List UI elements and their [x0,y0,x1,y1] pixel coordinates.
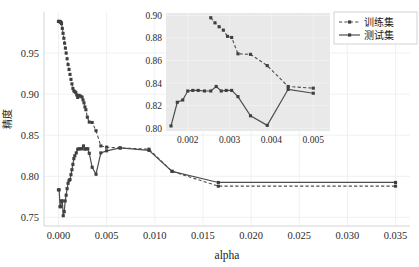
data-point-marker [58,188,61,191]
data-point-marker [68,73,71,76]
chart-figure: 0.0000.0050.0100.0150.0200.0250.0300.035… [0,0,419,267]
x-tick-label: 0.005 [95,230,119,241]
data-point-marker [80,147,83,150]
data-point-marker [99,151,102,154]
inset-y-tick-label: 0.88 [145,33,162,43]
data-point-marker [209,16,212,19]
data-point-marker [171,170,174,173]
inset-y-tick-labels: 0.800.820.840.860.880.90 [145,11,162,134]
data-point-marker [62,32,65,35]
data-point-marker [70,168,73,171]
inset-x-tick-label: 0.004 [261,135,283,145]
data-point-marker [80,95,83,98]
data-point-marker [62,37,65,40]
data-point-marker [82,101,85,104]
data-point-marker [218,25,221,28]
data-point-marker [72,157,75,160]
inset-x-tick-label: 0.005 [303,135,325,145]
data-point-marker [86,116,89,119]
data-point-marker [249,114,252,117]
legend-label: 训练集 [364,16,394,28]
data-point-marker [176,101,179,104]
legend[interactable]: 训练集测试集 [334,12,417,44]
data-point-marker [69,173,72,176]
inset-axes: 0.0020.0030.0040.0050.800.820.840.860.88… [145,11,330,145]
inset-x-tick-label: 0.002 [177,135,199,145]
data-point-marker [66,57,69,60]
data-point-marker [88,152,91,155]
legend-marker [348,33,351,36]
data-point-marker [213,21,216,24]
data-point-marker [59,205,62,208]
data-point-marker [169,124,172,127]
data-point-marker [226,35,229,38]
data-point-marker [249,53,252,56]
x-tick-label: 0.030 [336,230,360,241]
data-point-marker [69,78,72,81]
data-point-marker [217,185,220,188]
data-point-marker [394,181,397,184]
data-point-marker [75,151,78,154]
y-tick-label: 0.85 [21,130,39,141]
data-point-marker [99,144,102,147]
data-point-marker [225,89,228,92]
data-point-marker [94,129,97,132]
data-point-marker [220,89,223,92]
main-x-tick-labels: 0.0000.0050.0100.0150.0200.0250.0300.035 [47,230,408,241]
data-point-marker [62,214,65,217]
data-point-marker [81,98,84,101]
data-point-marker [236,52,239,55]
data-point-marker [67,63,70,66]
data-point-marker [70,82,73,85]
data-point-marker [186,89,189,92]
data-point-marker [86,147,89,150]
series-line-test-main [58,146,395,216]
inset-x-tick-label: 0.003 [219,135,241,145]
data-point-marker [82,144,85,147]
data-point-marker [236,95,239,98]
y-tick-label: 0.80 [21,171,39,182]
data-point-marker [191,89,194,92]
data-point-marker [394,185,397,188]
accuracy-vs-alpha-chart: 0.0000.0050.0100.0150.0200.0250.0300.035… [0,0,419,267]
data-point-marker [181,98,184,101]
data-point-marker [60,22,63,25]
legend-marker [348,20,351,23]
data-point-marker [217,181,220,184]
series-markers-test-main [57,144,397,217]
data-point-marker [222,29,225,32]
data-point-marker [63,210,66,213]
y-tick-label: 0.95 [21,48,39,59]
x-tick-label: 0.025 [287,230,311,241]
data-point-marker [215,85,218,88]
data-point-marker [203,89,206,92]
data-point-marker [65,52,68,55]
inset-background [166,13,330,131]
data-point-marker [105,149,108,152]
data-point-marker [147,149,150,152]
x-tick-label: 0.000 [47,230,71,241]
data-point-marker [61,27,64,30]
data-point-marker [67,68,70,71]
inset-y-tick-label: 0.86 [145,56,162,66]
data-point-marker [84,108,87,111]
data-point-marker [61,199,64,202]
data-point-marker [83,105,86,108]
data-point-marker [197,89,200,92]
inset-y-tick-label: 0.84 [145,79,162,89]
data-point-marker [68,178,71,181]
data-point-marker [105,146,108,149]
legend-label: 测试集 [364,29,394,41]
inset-y-tick-label: 0.80 [145,124,162,134]
main-y-tick-labels: 0.750.800.850.900.95 [21,48,39,223]
data-point-marker [266,64,269,67]
data-point-marker [64,199,67,202]
data-point-marker [88,121,91,124]
data-point-marker [66,187,69,190]
data-point-marker [312,92,315,95]
data-point-marker [287,85,290,88]
data-point-marker [91,166,94,169]
data-point-marker [71,163,74,166]
data-point-marker [94,173,97,176]
data-point-marker [119,146,122,149]
